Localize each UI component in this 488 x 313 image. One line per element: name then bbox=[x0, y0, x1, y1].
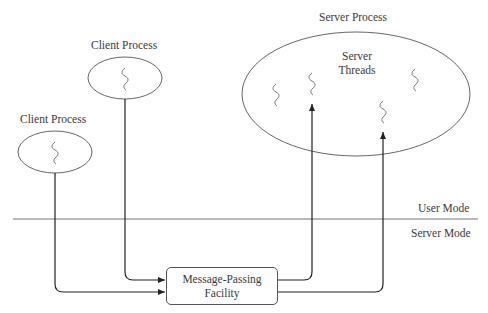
thread-squiggle-icon bbox=[412, 69, 418, 91]
thread-squiggle-icon bbox=[273, 84, 279, 106]
thread-squiggle-icon bbox=[52, 142, 58, 164]
server-process-label: Server Process bbox=[319, 12, 387, 24]
thread-squiggle-icon bbox=[309, 73, 315, 95]
connector-lower-client-to-facility bbox=[55, 173, 165, 292]
server-mode-label: Server Mode bbox=[411, 228, 471, 240]
message-passing-facility-box: Message-Passing Facility bbox=[166, 267, 278, 305]
client-process-upper-ellipse bbox=[88, 57, 162, 99]
thread-squiggle-icon bbox=[380, 101, 386, 123]
server-threads-label-line1: Server bbox=[339, 51, 375, 63]
connector-facility-to-thread-1 bbox=[278, 104, 312, 280]
facility-label-line1: Message-Passing bbox=[182, 272, 261, 286]
server-threads-label-line2: Threads bbox=[331, 65, 383, 77]
client-process-lower-label: Client Process bbox=[20, 114, 86, 126]
facility-label-line2: Facility bbox=[204, 286, 239, 300]
connector-upper-client-to-facility bbox=[125, 99, 165, 280]
client-process-upper-label: Client Process bbox=[91, 40, 157, 52]
thread-squiggle-icon bbox=[122, 68, 128, 90]
user-mode-label: User Mode bbox=[418, 203, 469, 215]
client-process-lower-ellipse bbox=[18, 131, 92, 173]
